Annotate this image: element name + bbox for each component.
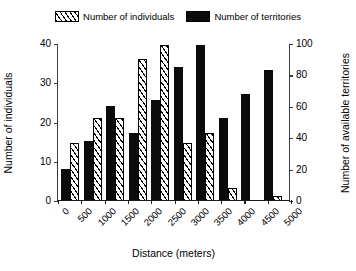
x-tick xyxy=(151,200,152,204)
y-tick-label-right: 20 xyxy=(296,165,307,175)
bar-group xyxy=(219,44,242,200)
x-tick-label: 0 xyxy=(60,206,71,217)
bar-group xyxy=(61,44,84,200)
y-tick-left xyxy=(54,44,58,45)
y-tick-label-right: 80 xyxy=(296,70,307,80)
bar-territories xyxy=(241,94,250,200)
x-tick xyxy=(58,200,59,204)
y-tick-right xyxy=(289,107,293,108)
bar-individuals xyxy=(183,143,192,200)
bar-individuals xyxy=(273,196,282,200)
x-tick-label: 4500 xyxy=(259,206,281,228)
x-tick-label: 1000 xyxy=(96,206,118,228)
y-tick-label-left: 10 xyxy=(40,157,51,167)
bar-territories xyxy=(151,100,160,200)
x-tick xyxy=(244,200,245,204)
x-tick-label: 2500 xyxy=(166,206,188,228)
x-tick xyxy=(221,200,222,204)
legend-label-individuals: Number of individuals xyxy=(83,11,174,22)
x-tick xyxy=(128,200,129,204)
x-tick-label: 500 xyxy=(76,206,94,224)
x-tick-label: 1500 xyxy=(119,206,141,228)
bar-individuals xyxy=(160,45,169,200)
y-axis-left-title: Number of individuals xyxy=(0,44,16,201)
bar-group xyxy=(264,44,287,200)
x-tick-label: 5000 xyxy=(282,206,304,228)
bar-group xyxy=(129,44,152,200)
y-tick-label-left: 0 xyxy=(45,196,51,206)
x-tick-label: 2000 xyxy=(142,206,164,228)
bar-group xyxy=(196,44,219,200)
bar-territories xyxy=(219,118,228,200)
legend-item-individuals: Number of individuals xyxy=(55,11,174,22)
x-tick xyxy=(81,200,82,204)
y-tick-label-left: 40 xyxy=(40,39,51,49)
bar-territories xyxy=(106,106,115,200)
bar-group xyxy=(241,44,264,200)
bar-individuals xyxy=(70,143,79,200)
legend-label-territories: Number of territories xyxy=(214,11,301,22)
y-tick-left xyxy=(54,83,58,84)
y-tick-label-right: 100 xyxy=(296,39,313,49)
bar-territories xyxy=(84,141,93,200)
bar-individuals xyxy=(138,59,147,200)
bar-individuals xyxy=(93,118,102,200)
y-tick-label-right: 60 xyxy=(296,102,307,112)
bar-group xyxy=(106,44,129,200)
x-tick-label: 3500 xyxy=(212,206,234,228)
y-tick-label-right: 40 xyxy=(296,133,307,143)
x-tick-label: 3000 xyxy=(189,206,211,228)
legend-item-territories: Number of territories xyxy=(186,11,301,22)
bar-territories xyxy=(174,67,183,200)
bar-individuals xyxy=(228,188,237,200)
y-tick-label-left: 30 xyxy=(40,78,51,88)
x-tick xyxy=(105,200,106,204)
bar-group xyxy=(174,44,197,200)
bar-group xyxy=(84,44,107,200)
chart-figure: Number of individuals Number of territor… xyxy=(0,0,356,271)
x-tick xyxy=(198,200,199,204)
x-tick-label: 4000 xyxy=(235,206,257,228)
bar-territories xyxy=(61,169,70,200)
y-tick-right xyxy=(289,138,293,139)
bar-individuals xyxy=(115,118,124,200)
legend-swatch-hatched-icon xyxy=(55,11,79,22)
bar-territories xyxy=(264,70,273,200)
x-tick xyxy=(268,200,269,204)
x-tick xyxy=(175,200,176,204)
x-tick xyxy=(291,200,292,204)
y-tick-label-left: 20 xyxy=(40,118,51,128)
x-axis-title: Distance (meters) xyxy=(57,247,290,259)
y-tick-right xyxy=(289,170,293,171)
y-tick-left xyxy=(54,123,58,124)
bar-series-container xyxy=(58,44,289,200)
bar-territories xyxy=(129,133,138,200)
legend-swatch-solid-icon xyxy=(186,11,210,22)
chart-legend: Number of individuals Number of territor… xyxy=(0,11,356,22)
bar-territories xyxy=(196,45,205,200)
bar-individuals xyxy=(205,133,214,200)
y-tick-label-right: 0 xyxy=(296,196,302,206)
y-axis-right-title: Number of available territories xyxy=(337,44,353,201)
y-tick-left xyxy=(54,162,58,163)
y-tick-right xyxy=(289,44,293,45)
plot-area: 010203040 020406080100 05001000150020002… xyxy=(57,44,290,201)
y-tick-right xyxy=(289,75,293,76)
bar-group xyxy=(151,44,174,200)
